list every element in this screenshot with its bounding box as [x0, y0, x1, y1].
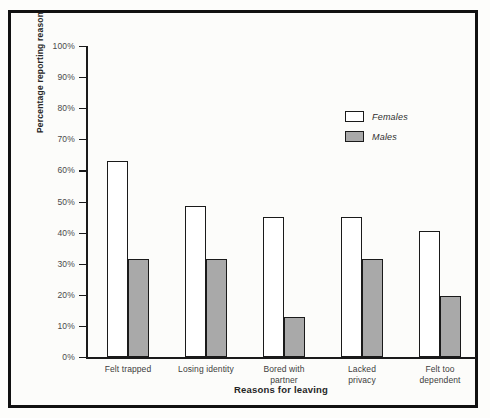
- bar-females: [341, 217, 362, 357]
- y-axis-line: [86, 46, 88, 357]
- y-axis-tick-label: 10%: [57, 321, 75, 331]
- chart-page: Percentage reporting reason 100%90%80%70…: [0, 0, 490, 418]
- bar-males: [128, 259, 149, 357]
- y-axis-tick-mark: [79, 170, 86, 171]
- y-axis-tick-mark: [79, 202, 86, 203]
- bar-males: [206, 259, 227, 357]
- y-axis-tick-mark: [79, 108, 86, 109]
- x-axis-category-label: Felt too dependent: [401, 364, 479, 386]
- bar-females: [419, 231, 440, 357]
- legend-swatch-males: [345, 131, 364, 142]
- x-axis-category-label: Bored with partner: [245, 364, 323, 386]
- y-axis-tick-label: 30%: [57, 259, 75, 269]
- bar-females: [263, 217, 284, 357]
- bar-females: [185, 206, 206, 357]
- legend-swatch-females: [345, 111, 364, 122]
- x-axis-category-label: Losing identity: [167, 364, 245, 375]
- y-axis-tick-mark: [79, 295, 86, 296]
- bar-males: [362, 259, 383, 357]
- y-axis-tick-label: 40%: [57, 228, 75, 238]
- bar-males: [284, 317, 305, 357]
- bar-females: [107, 161, 128, 357]
- y-axis-tick-label: 90%: [57, 72, 75, 82]
- y-axis-tick-mark: [79, 233, 86, 234]
- legend-label: Males: [372, 132, 397, 142]
- y-axis-tick-mark: [79, 139, 86, 140]
- y-axis-tick-label: 70%: [57, 134, 75, 144]
- y-axis-tick-mark: [79, 46, 86, 47]
- y-axis-title: Percentage reporting reason: [35, 12, 45, 133]
- y-axis-tick-mark: [79, 357, 86, 358]
- y-axis-tick-label: 60%: [57, 165, 75, 175]
- y-axis-tick-label: 100%: [52, 41, 75, 51]
- bar-males: [440, 296, 461, 357]
- y-axis-tick-mark: [79, 264, 86, 265]
- y-axis-tick-label: 50%: [57, 197, 75, 207]
- y-axis-tick-label: 20%: [57, 290, 75, 300]
- legend-item: Males: [345, 131, 408, 142]
- x-axis-category-label: Lacked privacy: [323, 364, 401, 386]
- y-axis-tick-label: 80%: [57, 103, 75, 113]
- legend-label: Females: [372, 112, 408, 122]
- legend-item: Females: [345, 111, 408, 122]
- y-axis-tick-mark: [79, 326, 86, 327]
- y-axis-tick-mark: [79, 77, 86, 78]
- plot-area: 100%90%80%70%60%50%40%30%20%10%0% Felt t…: [86, 46, 476, 357]
- y-axis-tick-label: 0%: [62, 352, 75, 362]
- x-axis-title: Reasons for leaving: [86, 384, 476, 395]
- chart-legend: FemalesMales: [345, 111, 408, 151]
- x-axis-line: [86, 357, 476, 359]
- figure-frame: Percentage reporting reason 100%90%80%70…: [8, 10, 478, 408]
- x-axis-category-label: Felt trapped: [89, 364, 167, 375]
